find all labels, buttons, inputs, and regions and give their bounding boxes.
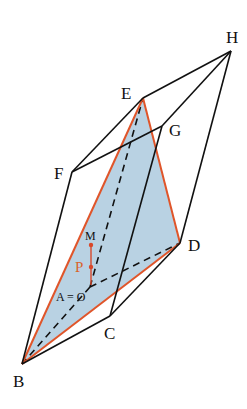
label-e: E xyxy=(121,84,131,103)
parallelepiped-diagram: H E G F D C B M P A = O xyxy=(0,0,247,409)
label-b: B xyxy=(13,372,24,391)
point-p xyxy=(89,265,93,269)
label-c: C xyxy=(104,324,115,343)
label-a-equals-o: A = O xyxy=(56,290,86,304)
point-m xyxy=(89,243,93,247)
label-p: P xyxy=(75,259,83,275)
label-f: F xyxy=(54,164,63,183)
cross-section-triangle-bde xyxy=(22,98,180,364)
label-m: M xyxy=(85,229,96,243)
label-h: H xyxy=(226,28,238,47)
edge-eh xyxy=(143,51,231,98)
label-d: D xyxy=(188,236,200,255)
label-g: G xyxy=(169,121,181,140)
